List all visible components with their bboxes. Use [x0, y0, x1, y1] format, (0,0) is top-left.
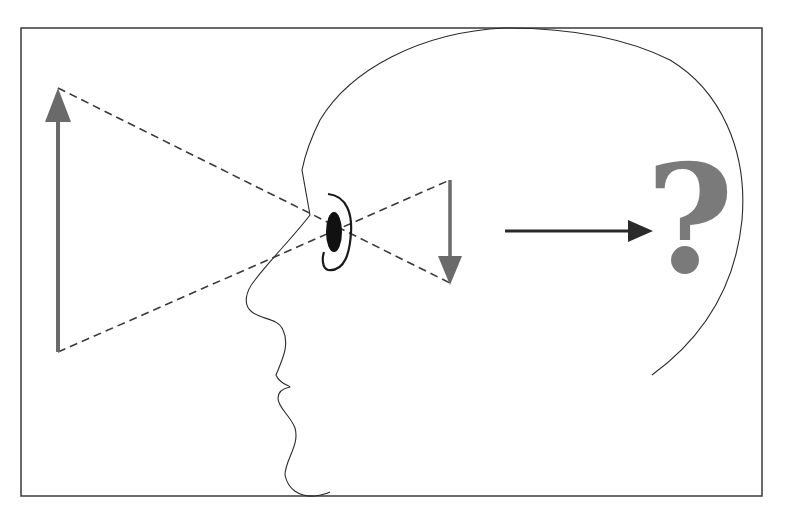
retinal-image-arrow	[438, 180, 462, 285]
pupil	[326, 212, 342, 252]
object-arrow	[45, 88, 71, 352]
vision-diagram: ?	[0, 0, 785, 516]
ray-top-to-bottom	[58, 88, 450, 283]
question-mark: ?	[646, 131, 734, 307]
perception-arrow	[505, 220, 653, 242]
arrow-down-icon	[438, 256, 462, 285]
arrow-up-icon	[45, 88, 71, 122]
ray-bottom-to-top	[58, 180, 450, 352]
eye	[323, 194, 351, 270]
